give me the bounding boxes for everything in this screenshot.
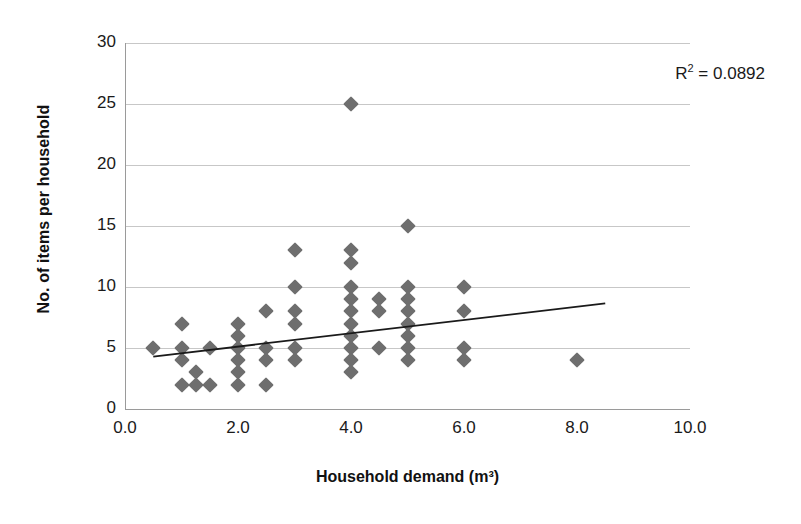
y-tick-30: 30 bbox=[68, 32, 116, 52]
y-tick-15: 15 bbox=[68, 215, 116, 235]
plot-area bbox=[125, 43, 690, 409]
x-tick-10.0: 10.0 bbox=[660, 418, 720, 438]
x-tick-4.0: 4.0 bbox=[321, 418, 381, 438]
scatter-chart-figure: No. of items per household Household dem… bbox=[0, 0, 801, 524]
x-tick-8.0: 8.0 bbox=[547, 418, 607, 438]
r-squared-value: = 0.0892 bbox=[694, 64, 765, 83]
y-axis-title: No. of items per household bbox=[35, 69, 53, 349]
x-axis-title: Household demand (m³) bbox=[125, 468, 690, 486]
x-axis-line bbox=[125, 409, 690, 410]
x-tick-0.0: 0.0 bbox=[95, 418, 155, 438]
y-tick-20: 20 bbox=[68, 154, 116, 174]
x-tick-6.0: 6.0 bbox=[434, 418, 494, 438]
x-tick-2.0: 2.0 bbox=[208, 418, 268, 438]
trendline bbox=[125, 43, 690, 409]
y-tick-5: 5 bbox=[68, 337, 116, 357]
trendline-segment bbox=[153, 303, 605, 356]
y-tick-0: 0 bbox=[68, 398, 116, 418]
y-tick-10: 10 bbox=[68, 276, 116, 296]
y-tick-25: 25 bbox=[68, 93, 116, 113]
